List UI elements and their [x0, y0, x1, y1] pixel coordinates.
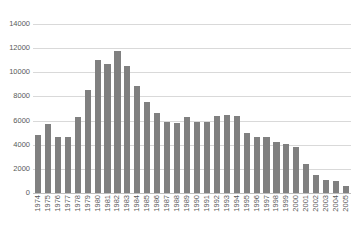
bar-slot	[202, 24, 212, 193]
bar-slot	[63, 24, 73, 193]
x-axis-tick-slot: 1979	[83, 195, 93, 237]
x-axis-tick-slot: 1978	[73, 195, 83, 237]
bar[interactable]	[55, 137, 61, 193]
bar-slot	[33, 24, 43, 193]
bar[interactable]	[234, 116, 240, 193]
bar-slot	[311, 24, 321, 193]
bar[interactable]	[164, 122, 170, 193]
bar[interactable]	[313, 175, 319, 193]
bar[interactable]	[343, 186, 349, 193]
bar-slot	[331, 24, 341, 193]
x-axis-tick-slot: 1975	[43, 195, 53, 237]
x-axis-tick-slot: 1982	[113, 195, 123, 237]
bar-series	[33, 24, 351, 193]
x-axis-tick-label: 1982	[114, 195, 122, 212]
bar[interactable]	[194, 122, 200, 193]
x-axis-tick-slot: 2005	[341, 195, 351, 237]
bar-slot	[291, 24, 301, 193]
bar-slot	[83, 24, 93, 193]
x-axis-tick-slot: 1976	[53, 195, 63, 237]
bar-slot	[93, 24, 103, 193]
x-axis-tick-label: 1978	[74, 195, 82, 212]
bar-slot	[122, 24, 132, 193]
x-axis-tick-label: 1976	[54, 195, 62, 212]
x-axis-tick-slot: 2003	[321, 195, 331, 237]
x-axis-tick-slot: 1995	[242, 195, 252, 237]
bar[interactable]	[45, 124, 51, 193]
bar[interactable]	[244, 133, 250, 193]
bar[interactable]	[273, 142, 279, 193]
x-axis-tick-slot: 2004	[331, 195, 341, 237]
x-axis-tick-label: 2004	[332, 195, 340, 212]
bar[interactable]	[224, 115, 230, 193]
x-axis-tick-slot: 1988	[172, 195, 182, 237]
x-axis-tick-label: 1998	[273, 195, 281, 212]
x-axis-tick-label: 1979	[84, 195, 92, 212]
bar[interactable]	[333, 181, 339, 193]
bar[interactable]	[303, 164, 309, 193]
x-axis-tick-slot: 1980	[93, 195, 103, 237]
bar[interactable]	[283, 144, 289, 193]
x-axis-tick-slot: 1997	[262, 195, 272, 237]
bar[interactable]	[95, 60, 101, 193]
x-axis-tick-slot: 1984	[132, 195, 142, 237]
bar[interactable]	[154, 113, 160, 193]
bar[interactable]	[114, 51, 120, 193]
bar-slot	[341, 24, 351, 193]
x-axis-tick-slot: 2000	[291, 195, 301, 237]
x-axis-tick-label: 1977	[64, 195, 72, 212]
x-axis-tick-label: 1975	[44, 195, 52, 212]
x-axis-tick-label: 1997	[263, 195, 271, 212]
x-axis-tick-slot: 1990	[192, 195, 202, 237]
y-axis-tick-label: 0	[0, 189, 30, 197]
bar-slot	[242, 24, 252, 193]
x-axis-tick-label: 2003	[322, 195, 330, 212]
bar-slot	[43, 24, 53, 193]
bar[interactable]	[104, 64, 110, 193]
bar[interactable]	[214, 116, 220, 193]
bar-slot	[113, 24, 123, 193]
bar-slot	[252, 24, 262, 193]
x-axis-tick-label: 1999	[283, 195, 291, 212]
x-axis-tick-label: 1974	[34, 195, 42, 212]
x-axis-tick-label: 1995	[243, 195, 251, 212]
x-axis-tick-label: 1996	[253, 195, 261, 212]
bar[interactable]	[293, 147, 299, 193]
bar-slot	[172, 24, 182, 193]
bar[interactable]	[85, 90, 91, 193]
bar[interactable]	[35, 135, 41, 193]
x-axis-tick-label: 2000	[293, 195, 301, 212]
bar[interactable]	[204, 122, 210, 193]
y-axis-tick-label: 2000	[0, 165, 30, 173]
bar-slot	[222, 24, 232, 193]
bar[interactable]	[254, 137, 260, 193]
x-axis-tick-label: 1988	[173, 195, 181, 212]
bar[interactable]	[144, 102, 150, 193]
y-axis-labels: 14000120001000080006000400020000	[0, 24, 30, 193]
bar-slot	[262, 24, 272, 193]
bar[interactable]	[124, 66, 130, 193]
x-axis-tick-label: 1986	[153, 195, 161, 212]
bar-slot	[53, 24, 63, 193]
x-axis-tick-slot: 1983	[122, 195, 132, 237]
x-axis-tick-slot: 1993	[222, 195, 232, 237]
bar[interactable]	[75, 117, 81, 193]
x-axis-tick-slot: 1985	[142, 195, 152, 237]
x-axis-tick-slot: 1977	[63, 195, 73, 237]
bar[interactable]	[323, 180, 329, 193]
bar[interactable]	[65, 137, 71, 193]
x-axis-tick-slot: 1986	[152, 195, 162, 237]
bar-slot	[103, 24, 113, 193]
x-axis-tick-label: 2001	[303, 195, 311, 212]
x-axis-tick-label: 2002	[312, 195, 320, 212]
bar[interactable]	[184, 117, 190, 193]
x-axis-tick-slot: 1991	[202, 195, 212, 237]
y-axis-tick-label: 8000	[0, 93, 30, 101]
y-axis-tick-label: 14000	[0, 20, 30, 28]
bar[interactable]	[134, 86, 140, 193]
x-axis-tick-label: 1985	[144, 195, 152, 212]
bar[interactable]	[263, 137, 269, 193]
x-axis-tick-label: 1983	[124, 195, 132, 212]
bar[interactable]	[174, 123, 180, 193]
x-axis-tick-label: 1990	[193, 195, 201, 212]
